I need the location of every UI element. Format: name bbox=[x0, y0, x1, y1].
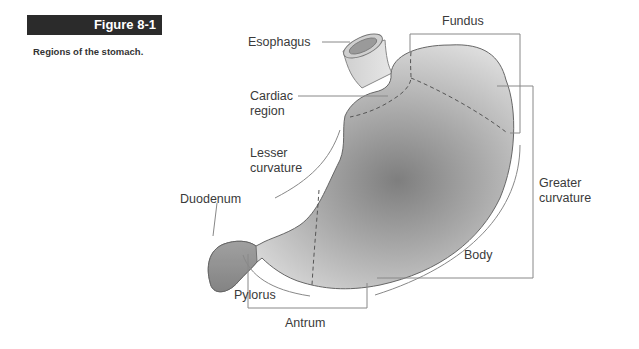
duodenum-shape bbox=[208, 241, 257, 292]
label-lesser-2: curvature bbox=[250, 161, 302, 175]
label-greater-2: curvature bbox=[539, 191, 591, 205]
label-esophagus: Esophagus bbox=[248, 35, 311, 49]
stomach-diagram: Esophagus Cardiac region Fundus Lesser c… bbox=[0, 0, 639, 349]
label-lesser-1: Lesser bbox=[250, 146, 288, 160]
label-body: Body bbox=[464, 248, 493, 262]
label-pylorus: Pylorus bbox=[234, 288, 276, 302]
label-antrum: Antrum bbox=[285, 316, 325, 330]
esophagus-shape bbox=[340, 29, 392, 88]
label-cardiac-1: Cardiac bbox=[250, 89, 293, 103]
label-cardiac-2: region bbox=[250, 104, 285, 118]
label-duodenum: Duodenum bbox=[180, 192, 241, 206]
label-greater-1: Greater bbox=[539, 176, 581, 190]
label-fundus: Fundus bbox=[442, 14, 484, 28]
